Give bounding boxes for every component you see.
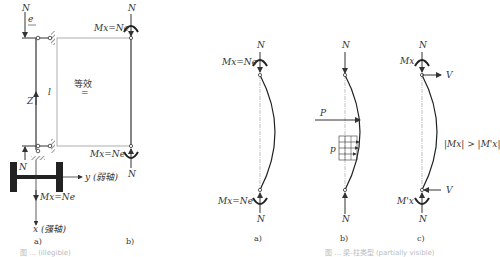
label-mx-top-b: Mx=Ne <box>93 23 129 33</box>
label-p: P <box>319 108 327 118</box>
diagram-canvas: N e Z N y (弱轴) Mx=Ne x (强轴) a) <box>0 0 500 257</box>
label-n-top-b: N <box>127 3 137 13</box>
equals-sign: = <box>81 88 89 98</box>
top-support-hatch <box>51 31 55 45</box>
label-n-bottom-b: N <box>127 169 137 179</box>
i-section-icon <box>10 162 63 192</box>
label-mx-ne: Mx=Ne <box>39 192 75 202</box>
label-mx-top: Mx=Ne <box>221 57 257 67</box>
label-n-top: N <box>21 3 31 13</box>
label-length: l <box>48 87 51 97</box>
left-caption-a: a) <box>34 237 42 246</box>
left-panel-b: l 等效 = N Mx=Ne Mx=Ne N b) <box>48 3 138 246</box>
label-z: Z <box>26 96 34 106</box>
right-caption-b: b) <box>340 234 348 243</box>
label-n-top: N <box>418 40 428 50</box>
label-p-distributed: p <box>330 144 336 154</box>
label-moment-relation: |Mx| > |M'x| <box>444 139 500 150</box>
right-figure-caption: 图 ... 梁-柱类型 (partially visible) <box>325 248 435 257</box>
label-mx-top: Mx <box>399 56 414 66</box>
label-mx-prime: M'x <box>396 196 414 206</box>
right-panel-b: N P p N b) <box>315 40 360 243</box>
left-caption-b: b) <box>126 237 134 246</box>
distributed-load-icon <box>339 136 359 160</box>
label-x-axis: x (强轴) <box>33 224 66 234</box>
label-n-bottom: N <box>418 214 428 224</box>
right-caption-c: c) <box>417 234 425 243</box>
label-n-bottom: N <box>341 214 351 224</box>
label-mx-bottom: Mx=Ne <box>217 196 253 206</box>
label-n-bottom: N <box>256 214 266 224</box>
label-v-top: V <box>446 70 454 80</box>
left-figure-caption: 图 ... (illegible) <box>20 249 71 257</box>
label-mx-bottom-b: Mx=Ne <box>89 149 125 159</box>
right-panel-a: N Mx=Ne Mx=Ne N a) <box>217 40 275 243</box>
left-panel-a: N e Z N y (弱轴) Mx=Ne x (强轴) a) <box>10 3 118 246</box>
label-e: e <box>28 14 33 24</box>
label-n-top: N <box>256 40 266 50</box>
label-n-bottom: N <box>18 162 28 172</box>
label-n-top: N <box>341 40 351 50</box>
right-panel-c: N Mx V |Mx| > |M'x| V M'x N c) <box>396 40 500 243</box>
label-v-bottom: V <box>446 185 454 195</box>
label-y-axis: y (弱轴) <box>84 172 118 182</box>
right-caption-a: a) <box>254 234 262 243</box>
